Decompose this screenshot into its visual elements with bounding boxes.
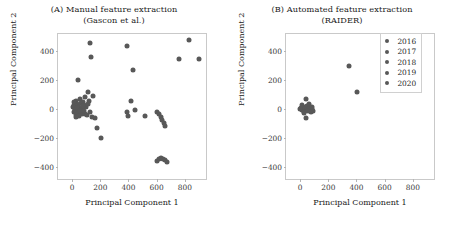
scatter-point [88,41,93,46]
x-tick-label: 600 [150,183,164,192]
year-legend: 20162017201820192020 [380,33,422,93]
scatter-point [91,93,96,98]
y-tick-mark [284,80,287,81]
pca-comparison-figure: (A) Manual feature extraction (Gascon et… [0,0,456,225]
y-tick-label: 400 [268,47,282,56]
scatter-point [303,96,308,101]
legend-marker-icon [385,71,389,75]
scatter-point [310,104,315,109]
scatter-point [132,108,137,113]
y-tick-label: 200 [40,76,54,85]
x-tick-mark [128,179,129,182]
scatter-point [129,99,134,104]
scatter-point [125,43,130,48]
y-tick-mark [284,138,287,139]
scatter-point [93,116,98,121]
scatter-point [347,63,352,68]
x-tick-mark [328,179,329,182]
legend-item-label: 2017 [397,47,416,56]
panel-a-plot-area: −400−20002004000200400600800 [57,33,207,180]
legend-item-2020[interactable]: 2020 [385,78,416,89]
x-tick-mark [157,179,158,182]
scatter-point [196,57,201,62]
legend-item-2016[interactable]: 2016 [385,36,416,47]
x-tick-label: 400 [121,183,135,192]
y-tick-label: −400 [262,163,282,172]
y-tick-label: −400 [34,163,54,172]
scatter-point [71,100,76,105]
legend-marker-icon [385,60,389,64]
legend-item-label: 2020 [397,79,416,88]
x-tick-mark [413,179,414,182]
legend-marker-icon [385,81,389,85]
legend-marker-icon [385,39,389,43]
y-tick-label: −200 [262,134,282,143]
scatter-point [177,57,182,62]
panel-b-x-axis-label: Principal Component 1 [285,198,435,207]
scatter-point [130,67,135,72]
y-tick-label: 200 [268,76,282,85]
x-tick-label: 0 [70,183,75,192]
scatter-point [304,116,309,121]
scatter-point [163,124,168,129]
scatter-point [82,108,87,113]
y-tick-mark [56,80,59,81]
x-tick-label: 200 [321,183,335,192]
panel-b-title-line1: (B) Automated feature extraction [271,4,412,14]
panel-a-manual-feature-extraction: (A) Manual feature extraction (Gascon et… [0,0,228,225]
scatter-point [126,113,131,118]
legend-item-2017[interactable]: 2017 [385,47,416,58]
x-tick-mark [185,179,186,182]
panel-b-title: (B) Automated feature extraction (RAIDER… [228,4,456,26]
y-tick-label: 0 [277,105,282,114]
x-tick-mark [72,179,73,182]
panel-a-title-line1: (A) Manual feature extraction [51,4,178,14]
scatter-point [187,37,192,42]
x-tick-mark [300,179,301,182]
scatter-point [74,115,79,120]
y-tick-mark [284,51,287,52]
x-tick-mark [385,179,386,182]
legend-item-label: 2019 [397,68,416,77]
y-tick-label: 400 [40,47,54,56]
y-tick-mark [56,138,59,139]
scatter-point [85,102,90,107]
legend-marker-icon [385,50,389,54]
scatter-point [298,107,303,112]
y-tick-mark [56,109,59,110]
scatter-point [75,77,80,82]
legend-item-label: 2018 [397,58,416,67]
x-tick-label: 800 [406,183,420,192]
panel-a-x-axis-label: Principal Component 1 [57,198,207,207]
scatter-point [308,110,313,115]
y-tick-mark [56,167,59,168]
scatter-point [98,136,103,141]
scatter-point [355,90,360,95]
legend-item-2019[interactable]: 2019 [385,68,416,79]
x-tick-label: 0 [298,183,303,192]
legend-item-2018[interactable]: 2018 [385,57,416,68]
x-tick-label: 400 [349,183,363,192]
panel-b-title-line2: (RAIDER) [228,15,456,26]
scatter-point [94,126,99,131]
y-tick-mark [284,109,287,110]
y-tick-mark [56,51,59,52]
scatter-point [143,113,148,118]
scatter-point [89,55,94,60]
x-tick-mark [100,179,101,182]
panel-a-title-line2: (Gascon et al.) [0,15,228,26]
y-tick-mark [284,167,287,168]
y-tick-label: 0 [49,105,54,114]
panel-a-title: (A) Manual feature extraction (Gascon et… [0,4,228,26]
x-tick-label: 200 [93,183,107,192]
panel-b-automated-feature-extraction: (B) Automated feature extraction (RAIDER… [228,0,456,225]
legend-item-label: 2016 [397,37,416,46]
x-tick-mark [356,179,357,182]
panel-b-y-axis-label: Principal Component 2 [237,13,246,106]
x-tick-label: 800 [178,183,192,192]
panel-a-y-axis-label: Principal Component 2 [9,13,18,106]
scatter-point [164,160,169,165]
x-tick-label: 600 [378,183,392,192]
y-tick-label: −200 [34,134,54,143]
